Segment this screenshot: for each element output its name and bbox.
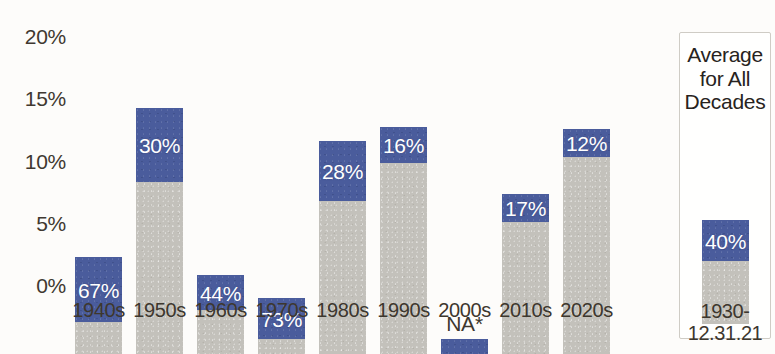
bar-segment-gray-1970s <box>258 339 305 354</box>
bar-segment-blue-2020s: 12% <box>563 129 610 157</box>
bar-label-average: 40% <box>702 230 749 251</box>
bar-segment-gray-2010s <box>502 222 549 354</box>
bar-segment-gray-1950s <box>136 182 183 354</box>
x-axis-tick-2000s: 2000s <box>435 300 494 322</box>
bar-average[interactable]: 40% <box>702 71 749 324</box>
bar-label-1990s: 16% <box>380 135 427 156</box>
bar-segment-blue-1990s: 16% <box>380 127 427 163</box>
x-axis-tick-1940s: 1940s <box>69 300 128 322</box>
bar-label-1980s: 28% <box>319 161 366 182</box>
bar-label-1950s: 30% <box>136 135 183 156</box>
bar-segment-blue-1950s: 30% <box>136 108 183 182</box>
bar-segment-gray-2020s <box>563 157 610 354</box>
bar-segment-gray-1990s <box>380 163 427 354</box>
bar-stack-2000s: NA* <box>441 339 488 354</box>
bar-stack-1980s: 28% <box>319 141 366 354</box>
x-axis-tick-1960s: 1960s <box>191 300 250 322</box>
x-axis-tick-average-line-2: 12.31.21 <box>679 322 771 344</box>
bar-label-2020s: 12% <box>563 133 610 154</box>
stacked-bar-chart: 20% 15% 10% 5% 0% 67% 30% <box>0 0 775 354</box>
bar-segment-blue-2000s <box>441 339 488 354</box>
x-axis-tick-1950s: 1950s <box>130 300 189 322</box>
average-panel: Average for All Decades 40% <box>679 32 771 339</box>
bar-segment-blue-average: 40% <box>702 220 749 261</box>
bar-segment-gray-1940s <box>75 322 122 354</box>
x-axis-tick-2010s: 2010s <box>496 300 555 322</box>
x-axis-tick-2020s: 2020s <box>557 300 616 322</box>
x-axis-tick-average: 1930- 12.31.21 <box>679 300 771 345</box>
bar-segment-gray-1980s <box>319 201 366 354</box>
x-axis-tick-1990s: 1990s <box>374 300 433 322</box>
x-axis-tick-average-line-1: 1930- <box>679 300 771 322</box>
bar-segment-blue-1980s: 28% <box>319 141 366 201</box>
bar-label-2010s: 17% <box>502 198 549 219</box>
bar-stack-2010s: 17% <box>502 194 549 354</box>
bar-segment-blue-2010s: 17% <box>502 194 549 222</box>
x-axis-tick-1970s: 1970s <box>252 300 311 322</box>
bar-label-1940s: 67% <box>75 279 122 300</box>
x-axis-tick-1980s: 1980s <box>313 300 372 322</box>
average-panel-title-line-1: Average <box>680 43 770 67</box>
